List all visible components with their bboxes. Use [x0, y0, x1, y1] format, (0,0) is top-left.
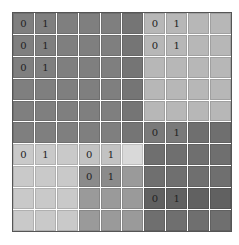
board-cell[interactable]: [188, 79, 209, 100]
board-cell[interactable]: [79, 79, 100, 100]
board-cell[interactable]: [166, 166, 187, 187]
board-cell[interactable]: [101, 57, 122, 78]
board-cell[interactable]: [101, 79, 122, 100]
board-cell[interactable]: [210, 144, 231, 165]
board-cell[interactable]: 0: [13, 13, 34, 34]
board-cell[interactable]: [79, 13, 100, 34]
board-cell[interactable]: [166, 79, 187, 100]
board-cell[interactable]: [188, 35, 209, 56]
board-cell[interactable]: [166, 144, 187, 165]
board-cell[interactable]: [188, 122, 209, 143]
board-cell[interactable]: [166, 57, 187, 78]
board-cell[interactable]: 1: [35, 13, 56, 34]
board-cell[interactable]: [79, 101, 100, 122]
board-cell[interactable]: [144, 79, 165, 100]
board-cell[interactable]: [101, 210, 122, 231]
board-cell[interactable]: 0: [144, 122, 165, 143]
board-cell[interactable]: [13, 188, 34, 209]
board-cell[interactable]: [13, 166, 34, 187]
board-cell[interactable]: 0: [79, 166, 100, 187]
board-cell[interactable]: [122, 101, 143, 122]
board-cell[interactable]: 1: [166, 35, 187, 56]
board-cell[interactable]: [122, 210, 143, 231]
board-cell[interactable]: [101, 13, 122, 34]
board-cell[interactable]: [188, 144, 209, 165]
board-cell[interactable]: [101, 122, 122, 143]
board-cell[interactable]: [166, 210, 187, 231]
board-cell[interactable]: [35, 79, 56, 100]
board-cell[interactable]: [57, 188, 78, 209]
board-cell[interactable]: [57, 210, 78, 231]
board-cell[interactable]: [57, 57, 78, 78]
board-cell[interactable]: 1: [35, 144, 56, 165]
board-cell[interactable]: [79, 210, 100, 231]
board-cell[interactable]: [188, 101, 209, 122]
board-cell[interactable]: [122, 79, 143, 100]
board-cell[interactable]: [144, 210, 165, 231]
board-cell[interactable]: [210, 210, 231, 231]
board-cell[interactable]: [57, 101, 78, 122]
board-cell[interactable]: [210, 79, 231, 100]
board-cell[interactable]: [122, 122, 143, 143]
board-cell[interactable]: [210, 35, 231, 56]
board-cell[interactable]: [35, 210, 56, 231]
board-cell[interactable]: [13, 210, 34, 231]
board-cell[interactable]: [144, 57, 165, 78]
board-cell[interactable]: 0: [13, 57, 34, 78]
board-cell[interactable]: [35, 188, 56, 209]
board-cell[interactable]: [144, 144, 165, 165]
board-cell[interactable]: [57, 13, 78, 34]
board-cell[interactable]: [35, 122, 56, 143]
board-cell[interactable]: [79, 122, 100, 143]
board-cell[interactable]: 1: [35, 57, 56, 78]
board-cell[interactable]: 1: [35, 35, 56, 56]
board-cell[interactable]: [188, 13, 209, 34]
board-cell[interactable]: [188, 166, 209, 187]
board-cell[interactable]: [57, 35, 78, 56]
board-cell[interactable]: [101, 101, 122, 122]
board-cell[interactable]: [188, 188, 209, 209]
board-cell[interactable]: 0: [144, 13, 165, 34]
board-cell[interactable]: [57, 144, 78, 165]
board-cell[interactable]: 1: [166, 188, 187, 209]
board-cell[interactable]: [101, 188, 122, 209]
board-cell[interactable]: [210, 57, 231, 78]
board-cell[interactable]: [57, 122, 78, 143]
board-cell[interactable]: [122, 166, 143, 187]
board-cell[interactable]: [144, 166, 165, 187]
board-cell[interactable]: 0: [79, 144, 100, 165]
board-cell[interactable]: [188, 57, 209, 78]
board-cell[interactable]: 1: [101, 144, 122, 165]
board-cell[interactable]: [79, 35, 100, 56]
board-cell[interactable]: [122, 188, 143, 209]
board-cell[interactable]: [122, 35, 143, 56]
board-cell[interactable]: [122, 13, 143, 34]
board-cell[interactable]: [13, 101, 34, 122]
board-cell[interactable]: [35, 166, 56, 187]
board-cell[interactable]: 0: [13, 35, 34, 56]
board-cell[interactable]: [210, 122, 231, 143]
board-cell[interactable]: [79, 188, 100, 209]
board-cell[interactable]: [13, 122, 34, 143]
board-cell[interactable]: 1: [101, 166, 122, 187]
board-cell[interactable]: [35, 101, 56, 122]
board-cell[interactable]: 0: [144, 188, 165, 209]
board-cell[interactable]: [210, 13, 231, 34]
board-cell[interactable]: 1: [166, 122, 187, 143]
board-cell[interactable]: [166, 101, 187, 122]
board-cell[interactable]: [210, 188, 231, 209]
board-cell[interactable]: [122, 57, 143, 78]
board-cell[interactable]: [210, 101, 231, 122]
board-cell[interactable]: [79, 57, 100, 78]
board-cell[interactable]: [57, 166, 78, 187]
board-cell[interactable]: [101, 35, 122, 56]
board-cell[interactable]: [57, 79, 78, 100]
board-cell[interactable]: 0: [144, 35, 165, 56]
board-cell[interactable]: 0: [13, 144, 34, 165]
board-cell[interactable]: [13, 79, 34, 100]
board-cell[interactable]: 1: [166, 13, 187, 34]
board-cell[interactable]: [210, 166, 231, 187]
board-cell[interactable]: [188, 210, 209, 231]
board-cell[interactable]: [122, 144, 143, 165]
board-cell[interactable]: [144, 101, 165, 122]
